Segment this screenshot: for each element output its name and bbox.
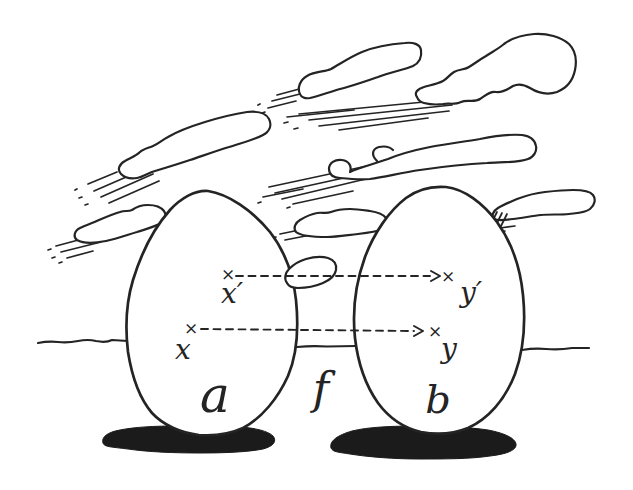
cloud-shape <box>329 135 536 180</box>
hand-drawn-map-illustration: × × × × x′ x y′ y a f b <box>0 0 633 490</box>
cloud-shape <box>295 209 388 237</box>
cloud-shape <box>299 43 421 99</box>
label-y: y <box>439 332 458 365</box>
cloud-speed-lines <box>258 88 303 113</box>
label-y-prime: y′ <box>458 276 483 309</box>
scene-svg: × × × × x′ x y′ y a f b <box>0 0 633 490</box>
cloud-shape <box>119 112 270 179</box>
cloud-top-middle <box>258 43 421 113</box>
cloud-middle-left <box>75 112 270 205</box>
cloud-above-right-egg <box>273 209 388 240</box>
cloud-shape <box>416 34 576 105</box>
cloud-middle-right <box>258 135 536 208</box>
label-set-b: b <box>425 376 451 422</box>
horizon-line-right <box>522 348 589 350</box>
horizon-line-left <box>38 340 128 343</box>
label-x-prime: x′ <box>221 277 244 310</box>
cloud-shape <box>493 190 595 220</box>
label-x: x <box>175 333 191 366</box>
cloud-between-eggs <box>285 257 336 288</box>
point-y-marker: × <box>428 321 442 341</box>
label-map-f: f <box>310 363 336 414</box>
sky <box>48 34 595 263</box>
horizon-line-middle <box>297 346 356 347</box>
label-set-a: a <box>200 366 230 424</box>
point-yprime-marker: × <box>441 266 455 286</box>
